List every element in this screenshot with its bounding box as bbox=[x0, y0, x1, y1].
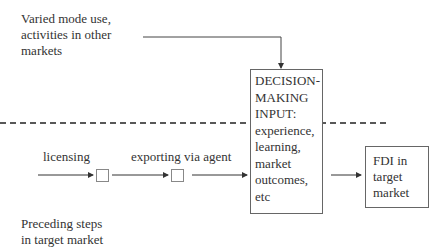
decision-making-input-box: DECISION- MAKING INPUT: experience, lear… bbox=[250, 69, 323, 214]
preceding-steps-label: Preceding steps in target market bbox=[21, 216, 103, 248]
fdi-label: FDI in target market bbox=[373, 153, 428, 201]
exporting-step-node bbox=[171, 169, 184, 182]
fdi-box: FDI in target market bbox=[365, 146, 429, 208]
decision-making-input-label: DECISION- MAKING INPUT: experience, lear… bbox=[255, 73, 322, 205]
exporting-label: exporting via agent bbox=[131, 149, 231, 165]
licensing-label: licensing bbox=[43, 149, 90, 165]
other-markets-label: Varied mode use, activities in other mar… bbox=[21, 11, 111, 59]
licensing-step-node bbox=[96, 169, 109, 182]
